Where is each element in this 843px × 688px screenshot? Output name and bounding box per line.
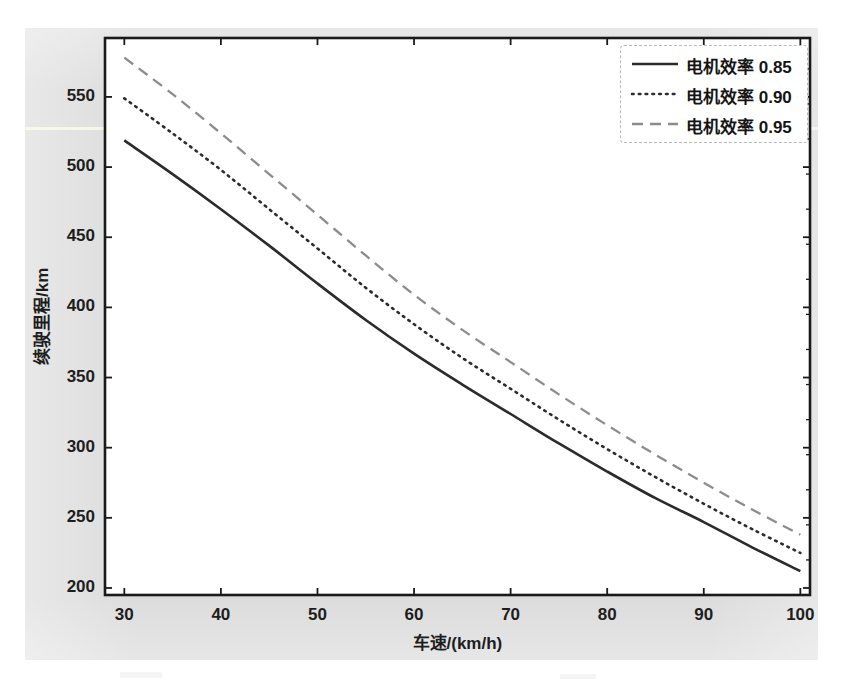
x-axis-title: 车速/(km/h) (413, 629, 503, 654)
x-tick-label: 60 (384, 605, 444, 625)
y-tick-label: 500 (67, 156, 95, 176)
x-tick-label: 70 (481, 605, 541, 625)
x-tick-label: 30 (94, 605, 154, 625)
x-tick-label: 40 (191, 605, 251, 625)
y-tick-label: 450 (67, 226, 95, 246)
y-tick-label: 350 (67, 367, 95, 387)
legend-label-2: 电机效率 0.95 (686, 113, 792, 138)
page-artifact (560, 674, 596, 679)
y-tick-label: 300 (67, 437, 95, 457)
y-axis-title: 续驶里程/km (28, 268, 53, 365)
legend-label-1: 电机效率 0.90 (686, 83, 792, 108)
x-tick-label: 80 (577, 605, 637, 625)
legend-label-0: 电机效率 0.85 (686, 53, 792, 78)
figure-stage: 电机效率 0.85电机效率 0.90电机效率 0.95 304050607080… (0, 0, 843, 688)
y-tick-label: 550 (67, 86, 95, 106)
x-tick-label: 50 (287, 605, 347, 625)
y-tick-label: 250 (67, 507, 95, 527)
x-tick-label: 90 (674, 605, 734, 625)
y-tick-label: 200 (67, 577, 95, 597)
page-artifact (120, 672, 162, 678)
y-tick-label: 400 (67, 296, 95, 316)
x-tick-label: 100 (770, 605, 830, 625)
